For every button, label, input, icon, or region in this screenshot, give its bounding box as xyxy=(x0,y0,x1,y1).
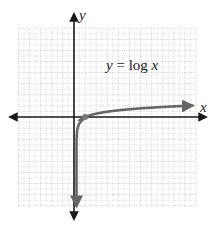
x-axis-label: x xyxy=(199,99,207,115)
function-lhs: y xyxy=(104,57,113,73)
y-axis-label: y xyxy=(77,7,86,23)
function-label: y = log x xyxy=(104,57,159,73)
function-eq: = xyxy=(113,57,129,73)
function-log: log xyxy=(129,57,152,73)
function-arg: x xyxy=(151,57,159,73)
log-function-graph: y x y = log x xyxy=(0,0,214,229)
point-1-0 xyxy=(82,114,88,120)
